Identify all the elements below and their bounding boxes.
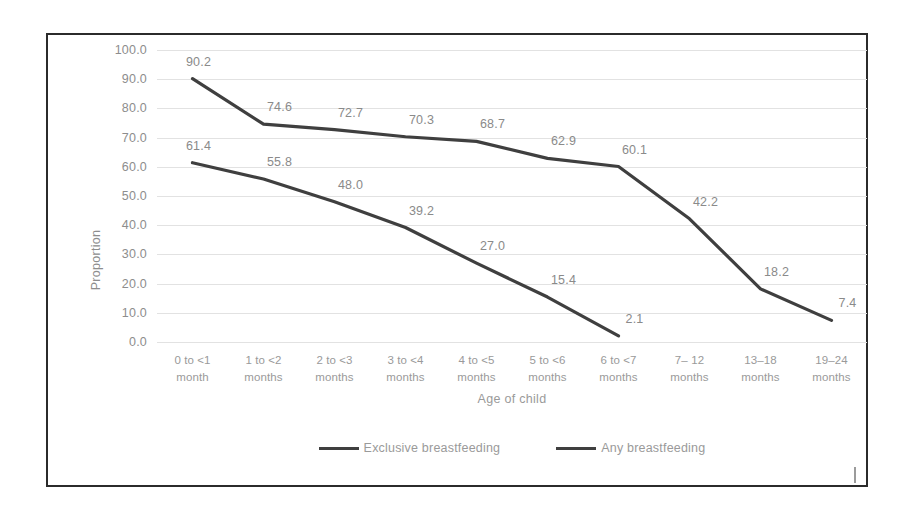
series-lines (157, 50, 867, 342)
series-line (193, 163, 619, 336)
data-point-label: 61.4 (186, 139, 211, 153)
x-axis-tick-label: 2 to <3months (296, 352, 374, 386)
data-point-label: 15.4 (551, 273, 576, 287)
data-point-label: 74.6 (267, 100, 292, 114)
x-axis-tick-label: 0 to <1month (154, 352, 232, 386)
x-axis-tick-label: 19–24months (793, 352, 871, 386)
legend-line-swatch (556, 447, 596, 450)
y-axis-tick-label: 10.0 (122, 306, 147, 320)
y-axis-tick-label: 30.0 (122, 247, 147, 261)
y-axis-tick-label: 100.0 (115, 43, 147, 57)
data-point-label: 72.7 (338, 106, 363, 120)
x-axis-tick-label: 6 to <7months (580, 352, 658, 386)
plot-area: 100.090.080.070.060.050.040.030.020.010.… (157, 50, 867, 342)
x-axis-tick-label: 7– 12months (651, 352, 729, 386)
data-point-label: 68.7 (480, 117, 505, 131)
corner-tick-mark (854, 467, 856, 483)
data-point-label: 2.1 (626, 312, 644, 326)
data-point-label: 70.3 (409, 113, 434, 127)
y-axis-tick-label: 0.0 (129, 335, 147, 349)
series-line (193, 79, 832, 321)
chart-figure: Proportion 100.090.080.070.060.050.040.0… (46, 33, 868, 487)
x-axis-title: Age of child (157, 392, 867, 406)
legend-item[interactable]: Any breastfeeding (556, 441, 705, 455)
x-axis-tick-label: 4 to <5months (438, 352, 516, 386)
x-axis-tick-label: 3 to <4months (367, 352, 445, 386)
data-point-label: 90.2 (186, 55, 211, 69)
data-point-label: 60.1 (622, 143, 647, 157)
data-point-label: 27.0 (480, 239, 505, 253)
data-point-label: 39.2 (409, 204, 434, 218)
y-axis-title: Proportion (89, 230, 103, 291)
legend-label: Exclusive breastfeeding (364, 441, 501, 455)
data-point-label: 18.2 (764, 265, 789, 279)
legend-line-swatch (319, 447, 359, 450)
legend-label: Any breastfeeding (601, 441, 705, 455)
y-axis-tick-label: 40.0 (122, 218, 147, 232)
data-point-label: 48.0 (338, 178, 363, 192)
y-axis-tick-label: 80.0 (122, 101, 147, 115)
gridline (157, 342, 867, 343)
x-axis-tick-label: 13–18months (722, 352, 800, 386)
y-axis-tick-label: 60.0 (122, 160, 147, 174)
y-axis-tick-label: 70.0 (122, 131, 147, 145)
data-point-label: 42.2 (693, 195, 718, 209)
data-point-label: 55.8 (267, 155, 292, 169)
y-axis-tick-label: 20.0 (122, 277, 147, 291)
data-point-label: 7.4 (839, 296, 857, 310)
data-point-label: 62.9 (551, 134, 576, 148)
y-axis-tick-label: 50.0 (122, 189, 147, 203)
y-axis-tick-label: 90.0 (122, 72, 147, 86)
x-axis-tick-label: 1 to <2months (225, 352, 303, 386)
legend-item[interactable]: Exclusive breastfeeding (319, 441, 501, 455)
x-axis-tick-label: 5 to <6months (509, 352, 587, 386)
chart-legend: Exclusive breastfeedingAny breastfeeding (157, 441, 867, 455)
